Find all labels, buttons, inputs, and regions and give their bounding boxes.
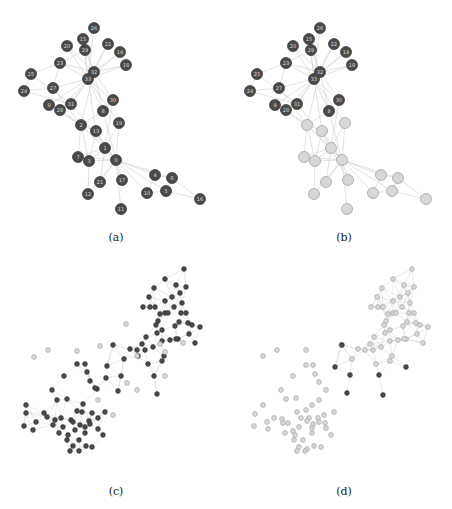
graph-node — [105, 364, 110, 369]
graph-node — [345, 391, 350, 396]
graph-node — [182, 267, 187, 272]
graph-node — [348, 373, 353, 378]
graph-node — [158, 342, 163, 347]
graph-node — [163, 277, 168, 282]
graph-node — [295, 410, 300, 415]
graph-node — [173, 324, 178, 329]
graph-node — [85, 370, 90, 375]
graph-node — [75, 362, 80, 367]
graph-node — [372, 335, 377, 340]
graph-node — [193, 341, 198, 346]
graph-node — [408, 301, 413, 306]
graph-node — [24, 411, 29, 416]
graph-node — [98, 344, 103, 349]
graph-node — [402, 337, 407, 342]
graph-node — [323, 421, 328, 426]
graph-node — [266, 427, 271, 432]
graph-node — [88, 379, 93, 384]
graph-node — [179, 311, 184, 316]
graph-node — [68, 449, 73, 454]
graph-node — [311, 422, 316, 427]
graph-node — [333, 365, 338, 370]
graph-node — [122, 357, 127, 362]
graph-node — [51, 423, 56, 428]
graph-node — [340, 343, 345, 348]
graph-node — [147, 295, 152, 300]
graph-node — [406, 291, 411, 296]
graph-node — [284, 397, 289, 402]
graph-node — [83, 431, 88, 436]
graph-node — [317, 420, 322, 425]
graph-node — [275, 348, 280, 353]
graph-node — [46, 348, 51, 353]
graph-node — [368, 342, 373, 347]
graph-node — [84, 444, 89, 449]
graph-node — [198, 325, 203, 330]
graph-node — [174, 337, 179, 342]
graph-node — [319, 445, 324, 450]
graph-node — [61, 425, 66, 430]
graph-node — [55, 398, 60, 403]
graph-node — [184, 285, 189, 290]
graph-node — [293, 433, 298, 438]
graph-node — [190, 323, 195, 328]
graph-node — [53, 418, 58, 423]
graph-node — [143, 348, 148, 353]
graph-node — [172, 305, 177, 310]
graph-node — [135, 354, 140, 359]
graph-node — [371, 348, 376, 353]
caption-d: (d) — [324, 485, 364, 498]
graph-node — [377, 373, 382, 378]
graph-node — [116, 389, 121, 394]
graph-node — [304, 348, 309, 353]
graph-node — [382, 323, 387, 328]
graph-node — [90, 411, 95, 416]
graph-node — [66, 433, 71, 438]
graph-node — [153, 305, 158, 310]
graph-node — [376, 305, 381, 310]
graph-node — [286, 421, 291, 426]
graph-node — [168, 338, 173, 343]
graph-node — [59, 416, 64, 421]
graph-node — [402, 283, 407, 288]
graph-node — [322, 413, 327, 418]
graph-node — [75, 349, 80, 354]
graph-node — [152, 374, 157, 379]
graph-node — [272, 416, 277, 421]
graph-node — [155, 392, 160, 397]
graph-node — [295, 449, 300, 454]
graph-node — [65, 397, 70, 402]
graph-node — [304, 363, 309, 368]
graph-node — [383, 331, 388, 336]
graph-node — [31, 428, 36, 433]
graph-node — [386, 312, 391, 317]
graph-node — [388, 328, 393, 333]
graph-node — [426, 325, 431, 330]
graph-node — [324, 388, 329, 393]
graph-node — [135, 348, 140, 353]
graph-node — [111, 343, 116, 348]
graph-node — [22, 424, 27, 429]
graph-node — [418, 323, 423, 328]
graph-node — [71, 444, 76, 449]
graph-node — [62, 374, 67, 379]
graph-node — [363, 348, 368, 353]
graph-node — [160, 328, 165, 333]
graph-node — [401, 324, 406, 329]
graph-node — [180, 301, 185, 306]
graph-node — [163, 374, 168, 379]
graph-node — [394, 311, 399, 316]
graph-node — [310, 403, 315, 408]
large-graph-detected — [0, 0, 226, 470]
graph-node — [146, 362, 151, 367]
graph-node — [374, 362, 379, 367]
graph-node — [90, 445, 95, 450]
graph-node — [88, 422, 93, 427]
graph-node — [375, 295, 380, 300]
graph-node — [163, 350, 168, 355]
graph-node — [177, 320, 182, 325]
graph-node — [73, 428, 78, 433]
graph-node — [291, 374, 296, 379]
graph-node — [350, 357, 355, 362]
graph-node — [77, 438, 82, 443]
